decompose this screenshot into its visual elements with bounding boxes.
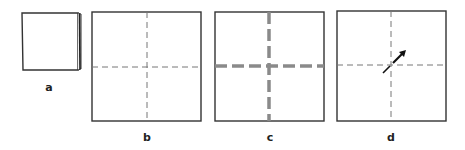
panel-a-folded-square [22, 13, 81, 70]
panel-d-square-arrow [337, 11, 446, 121]
panel-b-square-creases [92, 12, 201, 121]
panel-c-square-thick-dashes [215, 12, 324, 121]
panel-label-b: b [143, 132, 151, 143]
panel-label-a: a [45, 82, 52, 93]
panel-label-d: d [387, 132, 395, 143]
panel-label-c: c [267, 132, 274, 143]
origami-fold-diagram: a b c d [0, 0, 465, 150]
